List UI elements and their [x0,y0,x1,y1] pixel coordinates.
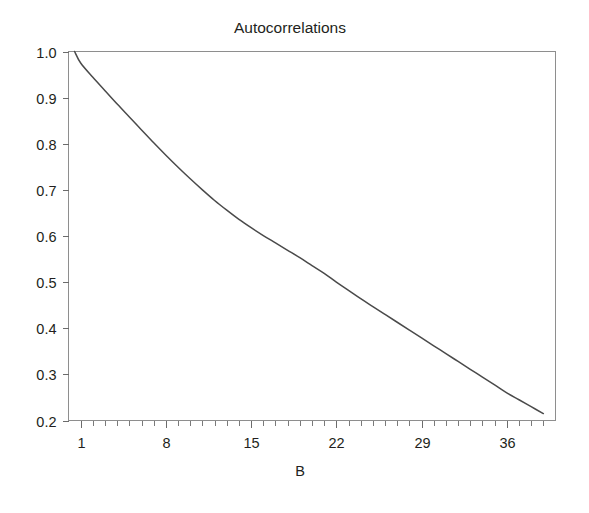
autocorrelation-chart: Autocorrelations 1.00.90.80.70.60.50.40.… [0,0,589,513]
x-axis-tick-label: 22 [328,435,344,451]
y-axis-tick-label: 0.7 [36,183,56,199]
y-axis-tick-label: 0.2 [36,414,56,430]
y-axis-tick-label: 1.0 [36,45,56,61]
y-axis-tick-label: 0.3 [36,367,56,383]
y-axis-tick-labels: 1.00.90.80.70.60.50.40.30.2 [36,45,56,430]
y-axis-tick-label: 0.9 [36,91,56,107]
y-axis-tick-label: 0.5 [36,275,56,291]
x-axis-tick-label: 29 [414,435,430,451]
x-axis-tick-label: 1 [77,435,85,451]
y-axis-tick-label: 0.6 [36,229,56,245]
x-axis-title: B [295,463,305,479]
x-axis-tick-label: 36 [499,435,515,451]
chart-canvas: Autocorrelations 1.00.90.80.70.60.50.40.… [0,0,589,513]
chart-title: Autocorrelations [234,19,346,36]
x-axis-tick-label: 15 [243,435,259,451]
x-axis-tick-label: 8 [162,435,170,451]
y-axis-tick-label: 0.8 [36,137,56,153]
y-axis-tick-label: 0.4 [36,321,56,337]
